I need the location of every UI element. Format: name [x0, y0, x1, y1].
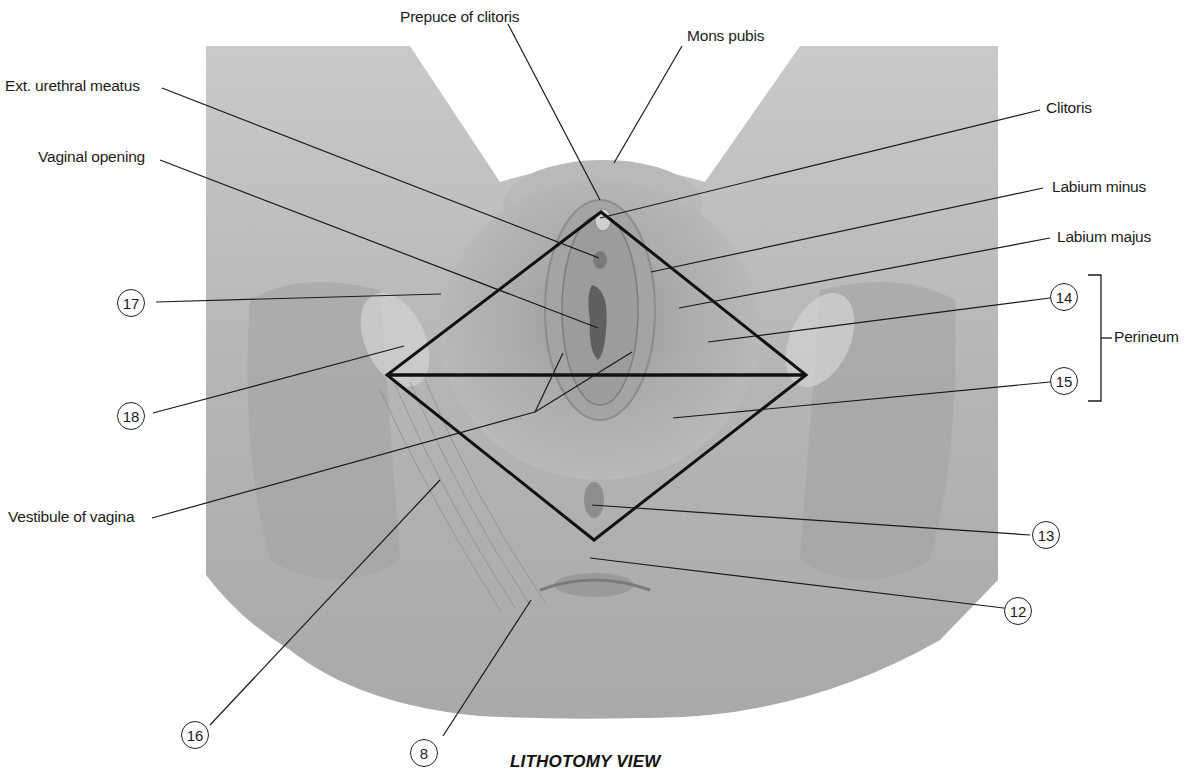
callout-15: 15 — [1050, 367, 1078, 395]
callout-12: 12 — [1004, 597, 1032, 625]
annotation-overlay — [0, 0, 1202, 781]
diagram-stage: Prepuce of clitoris Mons pubis Ext. uret… — [0, 0, 1202, 781]
callout-14: 14 — [1050, 283, 1078, 311]
label-labium-majus: Labium majus — [1057, 228, 1151, 246]
label-mons-pubis: Mons pubis — [687, 27, 764, 45]
label-clitoris: Clitoris — [1046, 99, 1092, 117]
label-ext-urethral-meatus: Ext. urethral meatus — [5, 77, 140, 95]
figure-caption: LITHOTOMY VIEW — [510, 752, 660, 772]
label-prepuce-of-clitoris: Prepuce of clitoris — [400, 8, 519, 26]
callout-13: 13 — [1032, 521, 1060, 549]
callout-18: 18 — [117, 402, 145, 430]
callout-8: 8 — [410, 739, 438, 767]
callout-17: 17 — [117, 289, 145, 317]
label-perineum: Perineum — [1114, 328, 1179, 346]
label-vestibule-of-vagina: Vestibule of vagina — [8, 508, 134, 526]
label-labium-minus: Labium minus — [1052, 178, 1146, 196]
label-vaginal-opening: Vaginal opening — [38, 148, 145, 166]
perineum-bracket — [1088, 275, 1112, 401]
callout-16: 16 — [181, 721, 209, 749]
